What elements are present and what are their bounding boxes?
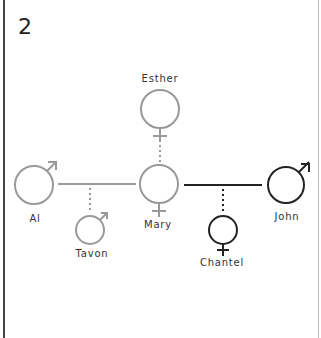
- name-tavon: Tavon: [75, 248, 109, 259]
- person-tavon: [76, 213, 107, 244]
- female-symbol-icon: [209, 216, 237, 244]
- name-esther: Esther: [142, 73, 179, 84]
- female-symbol-icon: [140, 165, 178, 203]
- name-mary: Mary: [144, 219, 172, 230]
- male-symbol-icon: [76, 216, 104, 244]
- person-mary: [140, 165, 178, 217]
- name-john: John: [274, 211, 300, 222]
- female-symbol-icon: [141, 90, 179, 128]
- male-symbol-icon: [15, 166, 53, 204]
- person-esther: [141, 90, 179, 142]
- person-john: [268, 162, 309, 203]
- person-al: [15, 162, 56, 204]
- male-symbol-icon: [268, 167, 304, 203]
- name-al: Al: [29, 213, 40, 224]
- person-chantel: [209, 216, 237, 256]
- name-chantel: Chantel: [200, 257, 244, 268]
